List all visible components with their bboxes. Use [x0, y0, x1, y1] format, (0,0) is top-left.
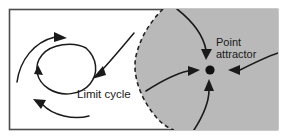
diagram-canvas: Limit cycle Point attractor [0, 0, 287, 140]
point-attractor-label-line2: attractor [216, 48, 257, 60]
attractor-diagram: Limit cycle Point attractor [0, 0, 287, 140]
point-attractor-dot [205, 65, 214, 74]
limit-cycle-label: Limit cycle [77, 88, 131, 100]
point-attractor-label-line1: Point [216, 36, 241, 48]
